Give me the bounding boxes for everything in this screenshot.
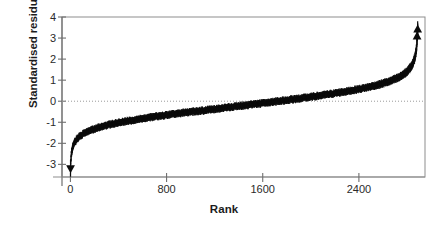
plot-area bbox=[0, 0, 448, 228]
data-series-points bbox=[70, 24, 419, 173]
outlier-markers bbox=[66, 21, 422, 177]
chart-figure: Standardised residual Rank 43210-1-2-3 0… bbox=[0, 0, 448, 228]
